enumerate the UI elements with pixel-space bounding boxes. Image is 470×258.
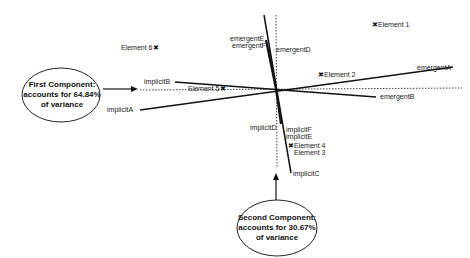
construct-line-A	[140, 67, 453, 110]
second-component-line3: of variance	[235, 233, 319, 243]
element-point-5: Element 5✖	[188, 85, 226, 93]
element-label-2: Element 2	[324, 71, 356, 78]
element-label-3: Element 3	[294, 149, 326, 156]
element-point-3: Element 3	[294, 149, 326, 157]
arrowhead-right-icon	[131, 86, 138, 92]
second-component-line2: accounts for 30.67%	[235, 223, 319, 233]
construct-label-emergentB: emergentB	[380, 93, 414, 101]
element-label-6: Element 6	[121, 44, 153, 51]
first-component-line1: First Component:	[22, 80, 102, 90]
construct-label-implicitA: implicitA	[107, 106, 133, 114]
construct-label-implicitE: implicitE	[286, 133, 312, 141]
second-component-label: Second Component: accounts for 30.67% of…	[235, 213, 319, 243]
first-component-label: First Component: accounts for 64.84% of …	[22, 80, 102, 110]
construct-label-emergentA: emergentA	[417, 64, 451, 72]
element-label-4: Element 4	[294, 142, 326, 149]
element-marker-icon: ✖	[153, 44, 159, 51]
first-component-line3: of variance	[22, 100, 102, 110]
element-label-1: Element 1	[378, 21, 410, 28]
element-point-1: ✖Element 1	[372, 21, 410, 29]
construct-label-implicitD: implicitD	[250, 124, 276, 132]
second-component-line1: Second Component:	[235, 213, 319, 223]
construct-label-implicitB: implicitB	[144, 78, 170, 86]
biplot-diagram: First Component: accounts for 64.84% of …	[0, 0, 470, 258]
element-label-5: Element 5	[188, 85, 220, 92]
element-point-2: ✖Element 2	[318, 71, 356, 79]
element-marker-icon: ✖	[220, 85, 226, 92]
construct-label-emergentF: emergentF	[232, 42, 266, 50]
construct-line-D	[269, 46, 276, 89]
element-point-6: Element 6✖	[121, 44, 159, 52]
first-component-line2: accounts for 64.84%	[22, 90, 102, 100]
arrowhead-up-icon	[273, 173, 279, 180]
construct-label-emergentD: emergentD	[276, 46, 311, 54]
construct-label-implicitC: implicitC	[293, 170, 319, 178]
